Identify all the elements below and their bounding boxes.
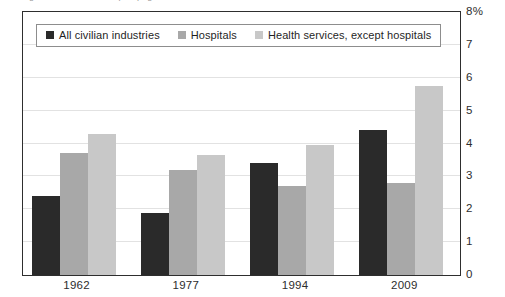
legend-entry[interactable]: Health services, except hospitals bbox=[255, 29, 432, 41]
y-axis-tick-label: 7 bbox=[466, 39, 473, 51]
y-axis-tick-label: 4 bbox=[466, 138, 473, 150]
clipped-caption-text: figure data cut off at top of page bbox=[24, 0, 404, 3]
bar bbox=[278, 186, 306, 275]
bar bbox=[415, 86, 443, 275]
bar bbox=[306, 145, 334, 275]
bar bbox=[197, 155, 225, 275]
legend-label: Hospitals bbox=[191, 29, 237, 41]
y-axis-tick-label: 8% bbox=[466, 6, 483, 18]
gridline bbox=[23, 77, 460, 78]
bar-chart-figure: figure data cut off at top of page 01234… bbox=[0, 0, 505, 297]
gridline bbox=[23, 110, 460, 111]
legend-label: All civilian industries bbox=[59, 29, 160, 41]
chart-legend: All civilian industriesHospitalsHealth s… bbox=[36, 24, 441, 47]
legend-label: Health services, except hospitals bbox=[268, 29, 432, 41]
bar bbox=[169, 170, 197, 275]
bar bbox=[32, 196, 60, 275]
legend-entry[interactable]: All civilian industries bbox=[46, 29, 160, 41]
bar bbox=[250, 163, 278, 275]
y-axis-tick-label: 5 bbox=[466, 105, 473, 117]
y-axis-tick-label: 3 bbox=[466, 170, 473, 182]
y-axis-tick-label: 0 bbox=[466, 269, 473, 281]
y-axis-tick-label: 6 bbox=[466, 72, 473, 84]
legend-swatch-hospitals bbox=[178, 31, 186, 39]
legend-swatch-health-services bbox=[255, 31, 263, 39]
x-axis-label: 1994 bbox=[241, 279, 350, 291]
bar bbox=[88, 134, 116, 275]
plot-area bbox=[22, 11, 461, 276]
bar bbox=[359, 130, 387, 275]
y-axis-tick-labels: 012345678% bbox=[466, 0, 505, 297]
y-axis-tick-label: 1 bbox=[466, 236, 473, 248]
y-axis-tick-label: 2 bbox=[466, 203, 473, 215]
x-axis-label: 1962 bbox=[22, 279, 131, 291]
x-axis-label: 2009 bbox=[350, 279, 459, 291]
x-axis-label: 1977 bbox=[131, 279, 240, 291]
bar bbox=[141, 213, 169, 275]
bar bbox=[60, 153, 88, 275]
bar bbox=[387, 183, 415, 275]
legend-entry[interactable]: Hospitals bbox=[178, 29, 237, 41]
plot-inner bbox=[23, 12, 460, 275]
legend-swatch-all-civilian-industries bbox=[46, 31, 54, 39]
